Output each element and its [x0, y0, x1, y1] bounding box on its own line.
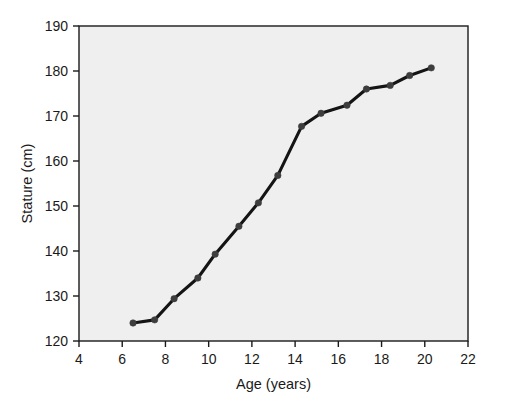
data-point-marker: [171, 296, 177, 302]
y-tick-label: 180: [45, 63, 69, 79]
chart-canvas: 120130140150160170180190 468101214161820…: [0, 0, 508, 409]
data-point-marker: [151, 317, 157, 323]
y-axis-title: Stature (cm): [19, 144, 35, 224]
data-point-marker: [387, 82, 393, 88]
y-tick-label: 130: [45, 288, 69, 304]
data-point-marker: [298, 123, 304, 129]
data-point-marker: [255, 200, 261, 206]
data-point-marker: [363, 86, 369, 92]
x-tick-label: 22: [460, 351, 476, 367]
y-tick-label: 160: [45, 153, 69, 169]
data-point-marker: [406, 72, 412, 78]
data-point-marker: [428, 65, 434, 71]
x-tick-label: 6: [118, 351, 126, 367]
data-point-marker: [318, 110, 324, 116]
x-tick-label: 18: [374, 351, 390, 367]
x-tick-label: 14: [287, 351, 303, 367]
x-tick-label: 4: [75, 351, 83, 367]
x-tick-label: 20: [417, 351, 433, 367]
data-point-marker: [195, 275, 201, 281]
y-tick-label: 140: [45, 243, 69, 259]
x-tick-label: 12: [244, 351, 260, 367]
x-axis-title: Age (years): [236, 376, 311, 392]
y-tick-label: 170: [45, 108, 69, 124]
x-tick-label: 8: [162, 351, 170, 367]
data-point-marker: [275, 172, 281, 178]
x-tick-label: 10: [201, 351, 217, 367]
y-tick-label: 120: [45, 333, 69, 349]
data-point-marker: [236, 223, 242, 229]
data-point-marker: [212, 251, 218, 257]
y-tick-label: 190: [45, 18, 69, 34]
x-tick-label: 16: [331, 351, 347, 367]
stature-growth-chart: 120130140150160170180190 468101214161820…: [0, 0, 508, 409]
y-tick-label: 150: [45, 198, 69, 214]
data-point-marker: [344, 102, 350, 108]
data-point-marker: [130, 320, 136, 326]
